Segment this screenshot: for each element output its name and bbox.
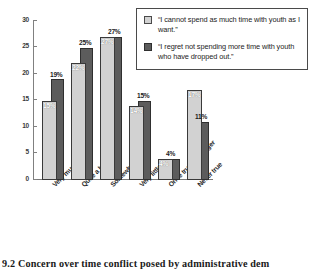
y-axis-line [33, 20, 34, 180]
light-gray-swatch [144, 16, 152, 24]
figure-caption: 9.2 Concern over time conflict posed by … [0, 259, 316, 269]
y-axis-tick-value: 30 [16, 17, 29, 23]
legend-item: “I regret not spending more time with yo… [144, 42, 306, 61]
y-axis-tick-label: 30 [16, 17, 29, 23]
y-axis-tick-value: 20 [16, 70, 29, 76]
bar-value-label-cannot-spend: 14% [130, 107, 142, 114]
bar-value-label-cannot-spend: 15% [43, 102, 55, 109]
bar-cannot-spend-series [129, 106, 144, 180]
bar-value-label-regret: 19% [50, 71, 62, 78]
bar-group: 25%22% [71, 20, 97, 180]
y-axis-tick-value: 0 [16, 176, 29, 182]
bar-cannot-spend-series [71, 63, 86, 180]
bar-value-label-regret: 15% [137, 92, 149, 99]
y-axis-tick-value: 5 [16, 149, 29, 155]
y-axis-tick-label: 15 [16, 96, 29, 102]
y-axis-tick [33, 126, 37, 127]
y-axis-tick [33, 46, 37, 47]
bar-cannot-spend-series [42, 101, 57, 181]
figure-caption-text: 9.2 Concern over time conflict posed by … [2, 259, 269, 269]
legend-item-label: “I regret not spending more time with yo… [158, 42, 306, 61]
bar-value-label-cannot-spend: 22% [72, 64, 84, 71]
bar-value-label-regret: 25% [79, 39, 91, 46]
y-axis-tick-label: 5 [16, 149, 29, 155]
y-axis-tick-label: 20 [16, 70, 29, 76]
bar-value-label-cannot-spend: 4% [159, 160, 168, 167]
y-axis-tick [33, 179, 37, 180]
y-axis-tick-value: 10 [16, 123, 29, 129]
y-axis-tick [33, 99, 37, 100]
y-axis-tick-value: 25 [16, 43, 29, 49]
bar-group: 19%15% [42, 20, 68, 180]
y-axis-tick-value: 15 [16, 96, 29, 102]
bar-cannot-spend-series [100, 37, 115, 180]
y-axis-tick [33, 152, 37, 153]
figure-chart: 051015202530 19%15%25%22%27%27%15%14%4%4… [0, 0, 316, 269]
bar-cannot-spend-series [187, 90, 202, 180]
bar-value-label-cannot-spend: 27% [101, 38, 113, 45]
y-axis-tick-label: 0 [16, 176, 29, 182]
bar-value-label-regret: 27% [108, 28, 120, 35]
dark-gray-swatch [144, 43, 152, 51]
legend-item-label: “I cannot spend as much time with youth … [158, 15, 306, 34]
y-axis-tick [33, 73, 37, 74]
bar-group: 27%27% [100, 20, 126, 180]
bar-value-label-regret: 4% [166, 150, 175, 157]
chart-legend: “I cannot spend as much time with youth … [136, 8, 308, 70]
bar-value-label-cannot-spend: 17% [188, 91, 200, 98]
y-axis-tick-label: 25 [16, 43, 29, 49]
bar-value-label-regret: 11% [195, 113, 207, 120]
y-axis-tick-label: 10 [16, 123, 29, 129]
legend-item: “I cannot spend as much time with youth … [144, 15, 306, 34]
y-axis-tick [33, 20, 37, 21]
